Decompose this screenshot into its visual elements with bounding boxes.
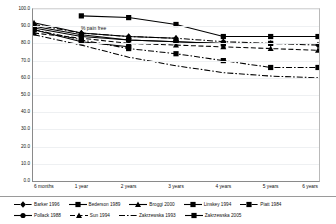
x-tick-label: 6 years [302, 184, 318, 190]
data-point [79, 13, 84, 18]
legend-item-zakrzewska-2005[interactable]: Zakrzewska 2005 [185, 210, 242, 221]
x-axis-tick-labels: 6 months1 year2 years3 years4 years5 yea… [0, 184, 336, 196]
legend-label: Pollack 1988 [34, 212, 61, 219]
x-tick-label: 3 years [168, 184, 184, 190]
x-tick-label: 5 years [263, 184, 279, 190]
x-tick-label: 4 years [215, 184, 231, 190]
y-tick-label: 10.0 [0, 160, 30, 165]
legend-row: Barker 1996Bederson 1989Broggi 2000Linsk… [0, 199, 336, 210]
x-tick-label: 6 months [34, 184, 54, 190]
legend-label: Piatt 1984 [260, 201, 281, 208]
y-tick-label: 20.0 [0, 143, 30, 148]
gridline [33, 95, 319, 96]
gridline [33, 112, 319, 113]
gridline [33, 164, 319, 165]
data-point [79, 32, 84, 37]
legend-label: Bederson 1989 [89, 201, 121, 208]
legend-symbol [184, 200, 202, 209]
y-axis-tick-labels: 0.010.020.030.040.050.060.070.080.090.01… [0, 8, 30, 182]
legend-label: Broggi 2000 [149, 201, 174, 208]
legend-symbol [14, 211, 32, 220]
legend-symbol [129, 200, 147, 209]
data-point [126, 37, 131, 42]
x-tick-label: 1 year [75, 184, 88, 190]
legend-label: Zakrzewska 1993 [139, 212, 176, 219]
legend-symbol [185, 211, 203, 220]
data-point [221, 34, 226, 39]
legend-item-pollack-1988[interactable]: Pollack 1988 [14, 210, 61, 221]
legend-item-broggi-2000[interactable]: Broggi 2000 [129, 199, 174, 210]
legend-symbol [69, 200, 87, 209]
legend-label: Barker 1996 [34, 201, 60, 208]
gridline [33, 61, 319, 62]
legend-row: Pollack 1988Sun 1994Zakrzewska 1993Zakrz… [0, 210, 336, 221]
legend-label: Zakrzewska 2005 [205, 212, 242, 219]
data-point [268, 65, 273, 70]
legend-item-sun-1994[interactable]: Sun 1994 [70, 210, 110, 221]
legend-label: Sun 1994 [90, 212, 110, 219]
legend-item-linskey-1994[interactable]: Linskey 1994 [184, 199, 232, 210]
legend-item-piatt-1984[interactable]: Piatt 1984 [240, 199, 281, 210]
legend-symbol [14, 200, 32, 209]
y-tick-label: 30.0 [0, 126, 30, 131]
gridline [33, 147, 319, 148]
y-tick-label: 0.0 [0, 178, 30, 183]
chart-legend: Barker 1996Bederson 1989Broggi 2000Linsk… [0, 196, 336, 224]
plot-wrapper: 0.010.020.030.040.050.060.070.080.090.01… [0, 0, 336, 196]
gridline [33, 9, 319, 10]
data-point [173, 51, 178, 56]
legend-symbol [70, 211, 88, 220]
plot-area: % pain free [32, 8, 320, 182]
gridline [33, 78, 319, 79]
legend-item-bederson-1989[interactable]: Bederson 1989 [69, 199, 121, 210]
y-tick-label: 80.0 [0, 40, 30, 45]
chart-root: 0.010.020.030.040.050.060.070.080.090.01… [0, 0, 336, 224]
legend-item-zakrzewska-1993[interactable]: Zakrzewska 1993 [119, 210, 176, 221]
data-point [126, 46, 131, 51]
gridline [33, 26, 319, 27]
y-tick-label: 60.0 [0, 74, 30, 79]
y-tick-label: 40.0 [0, 109, 30, 114]
data-point [315, 65, 319, 70]
data-point [126, 15, 131, 20]
y-tick-label: 50.0 [0, 92, 30, 97]
x-tick-label: 2 years [121, 184, 137, 190]
pain-free-caption: % pain free [81, 25, 106, 31]
legend-item-barker-1996[interactable]: Barker 1996 [14, 199, 60, 210]
data-point [268, 34, 273, 39]
gridline [33, 43, 319, 44]
legend-symbol [119, 211, 137, 220]
y-tick-label: 90.0 [0, 23, 30, 28]
gridline [33, 129, 319, 130]
legend-symbol [240, 200, 258, 209]
y-tick-label: 70.0 [0, 57, 30, 62]
data-point [315, 34, 319, 39]
legend-label: Linskey 1994 [204, 201, 232, 208]
y-tick-label: 100.0 [0, 6, 30, 11]
